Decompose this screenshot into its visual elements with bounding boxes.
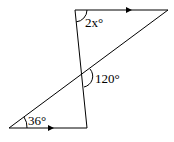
label-bottom-angle: 36°: [28, 113, 46, 128]
label-top-angle: 2x°: [85, 15, 103, 30]
label-middle-angle: 120°: [95, 71, 120, 86]
top-parallel-arrow-icon: [126, 7, 132, 13]
bottom-parallel-arrow-icon: [48, 125, 54, 131]
angle-arc-bottom: [24, 117, 27, 128]
geometry-diagram: 2x° 120° 36°: [0, 0, 174, 142]
